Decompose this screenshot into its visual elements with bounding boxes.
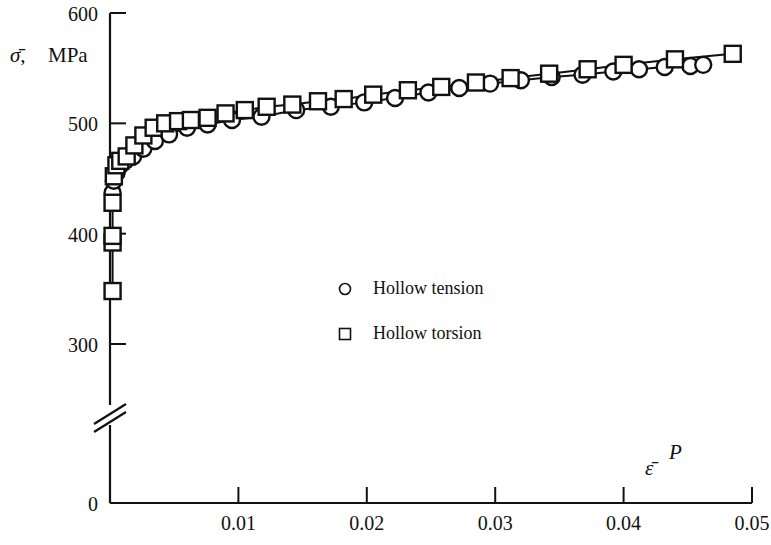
data-point-square (259, 99, 275, 115)
data-point-square (580, 61, 596, 77)
y-axis-title: σ̄, MPa (10, 43, 88, 67)
y-tick-label: 300 (68, 334, 98, 356)
data-point-square (218, 105, 234, 121)
data-point-square (183, 112, 199, 128)
data-point-square (200, 110, 216, 126)
y-axis-title-symbol: σ̄, (10, 43, 26, 67)
x-axis-title: ε̄ P (645, 440, 682, 480)
legend: Hollow tensionHollow torsion (340, 278, 484, 343)
chart-root: 300400500600 0.010.020.030.040.05 0 σ̄, … (0, 0, 771, 545)
data-point-circle (695, 57, 711, 73)
x-tick-label: 0.02 (349, 512, 384, 534)
y-tick-label: 400 (68, 224, 98, 246)
data-point-square (433, 79, 449, 95)
data-point-square (468, 75, 484, 91)
y-tick-label: 600 (68, 3, 98, 25)
data-point-circle (631, 61, 647, 77)
data-point-square (541, 66, 557, 82)
x-tick-label: 0.01 (221, 512, 256, 534)
data-point-square (237, 102, 253, 118)
data-point-square (503, 70, 519, 86)
data-point-square (667, 51, 683, 67)
data-point-square (725, 46, 741, 62)
x-axis-title-superscript: P (668, 440, 682, 464)
x-tick-group: 0.010.020.030.040.05 (221, 487, 770, 534)
data-point-square (336, 91, 352, 107)
y-tick-label: 500 (68, 113, 98, 135)
x-axis-title-symbol: ε̄ (645, 456, 659, 480)
data-point-square (284, 97, 300, 113)
data-point-square (365, 87, 381, 103)
series-markers (105, 46, 741, 299)
data-point-square (400, 82, 416, 98)
data-point-square (105, 228, 121, 244)
stress-strain-plot: 300400500600 0.010.020.030.040.05 0 σ̄, … (0, 0, 771, 545)
data-point-square (310, 93, 326, 109)
legend-marker-circle (340, 284, 351, 295)
x-tick-label: 0.04 (606, 512, 641, 534)
data-point-square (105, 195, 121, 211)
legend-label: Hollow torsion (373, 323, 482, 343)
data-point-square (105, 283, 121, 299)
x-tick-label: 0.05 (735, 512, 770, 534)
y-axis-title-unit: MPa (48, 43, 88, 67)
legend-marker-square (340, 329, 351, 340)
y-origin-label: 0 (88, 493, 98, 515)
data-point-square (616, 57, 632, 73)
legend-label: Hollow tension (373, 278, 484, 298)
data-point-circle (451, 80, 467, 96)
x-tick-label: 0.03 (478, 512, 513, 534)
